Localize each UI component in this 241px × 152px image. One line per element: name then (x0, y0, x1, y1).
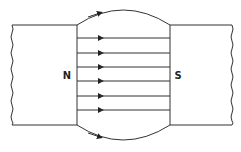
break-line (231, 25, 233, 125)
curved-field-lines (77, 10, 170, 140)
north-pole-label: N (63, 69, 71, 82)
straight-field-lines (77, 38, 170, 110)
magnetic-field-diagram: N S (0, 0, 241, 152)
break-line (11, 25, 13, 125)
south-pole-label: S (174, 69, 181, 82)
